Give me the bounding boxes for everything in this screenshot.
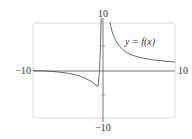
function-graph: 10 −10 −10 10 y = f(x) (0, 0, 192, 139)
x-min-label: −10 (15, 65, 31, 76)
curve-left-branch (33, 18, 101, 87)
y-max-label: 10 (98, 8, 108, 19)
x-max-label: 10 (178, 65, 188, 76)
y-min-label: −10 (95, 122, 111, 133)
function-label: y = f(x) (124, 36, 156, 48)
